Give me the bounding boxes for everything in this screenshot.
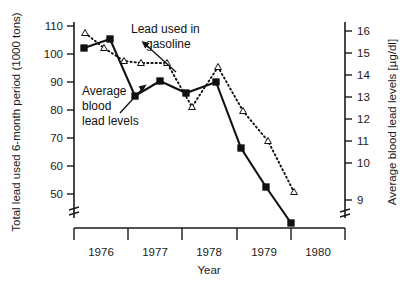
right-tick-label-16: 16 [357,25,370,37]
lead-gasoline-annotation-line1: Lead used in [131,22,200,36]
right-tick-label-15: 15 [357,47,370,59]
right-tick-label-12: 12 [357,113,370,125]
lead-and-blood-lead-chart: 110 100 90 80 70 60 50 Total lead used 6… [0,0,409,295]
marker-square [107,36,113,42]
left-tick-label-110: 110 [45,20,63,32]
left-tick-label-100: 100 [44,48,63,60]
marker-square [81,45,87,51]
x-tick-label-1978: 1978 [196,246,222,258]
marker-square [263,184,269,190]
blood-lead-annotation-line3: lead levels [82,114,139,128]
right-tick-label-11: 11 [357,135,369,147]
x-tick-label-1977: 1977 [142,246,168,258]
left-tick-label-70: 70 [50,132,63,144]
blood-lead-annotation-line2: blood [82,99,111,113]
right-tick-label-10: 10 [357,157,370,169]
left-tick-label-60: 60 [50,160,63,172]
chart-svg: 110 100 90 80 70 60 50 Total lead used 6… [0,0,409,295]
right-tick-label-14: 14 [357,69,370,81]
right-tick-label-13: 13 [357,91,370,103]
x-tick-label-1976: 1976 [88,246,114,258]
x-tick-label-1980: 1980 [305,246,331,258]
left-tick-label-50: 50 [50,188,63,200]
marker-square [238,145,244,151]
lead-gasoline-annotation-line2: gasoline [146,37,191,51]
x-axis-title: Year [197,264,220,276]
marker-square [157,78,163,84]
x-tick-label-1979: 1979 [251,246,277,258]
right-axis-title: Average blood lead levels [µg/dl] [386,39,398,205]
marker-square [213,79,219,85]
right-tick-label-9: 9 [357,194,363,206]
marker-square [288,220,294,226]
left-tick-label-80: 80 [50,104,63,116]
blood-lead-annotation-line1: Average [82,84,127,98]
left-axis-title: Total lead used 6-month period (1000 ton… [10,12,22,231]
marker-square [183,90,189,96]
left-tick-label-90: 90 [50,76,63,88]
